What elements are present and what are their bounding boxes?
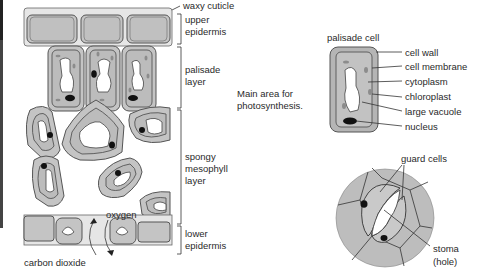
label-cell-wall: cell wall (405, 47, 438, 58)
label-lower-2: epidermis (185, 240, 226, 251)
label-spongy-1: spongy (185, 151, 216, 162)
label-cytoplasm: cytoplasm (405, 76, 448, 87)
palisade-cell-detail (330, 47, 402, 132)
note-line-1: Main area for (237, 88, 293, 99)
label-lower-1: lower (185, 228, 208, 239)
label-waxy-cuticle: waxy cuticle (183, 0, 234, 11)
note-line-2: photosynthesis. (237, 100, 303, 111)
label-cell-membrane: cell membrane (405, 61, 467, 72)
label-guard-cells: guard cells (401, 153, 447, 164)
label-chloroplast: chloroplast (405, 91, 451, 102)
label-carbon-dioxide: carbon dioxide (24, 257, 86, 268)
label-stoma-2: (hole) (433, 256, 457, 267)
label-spongy-3: layer (185, 175, 206, 186)
lower-epidermis (24, 215, 172, 245)
label-oxygen: oxygen (106, 209, 137, 220)
palisade-layer (48, 46, 156, 111)
label-spongy-2: mesophyll (185, 163, 228, 174)
leaf-diagram: .wall { fill: #c4c4c4; stroke: #555; str… (0, 0, 479, 272)
label-stoma-1: stoma (433, 243, 459, 254)
label-large-vacuole: large vacuole (405, 106, 462, 117)
label-upper-epidermis-1: upper (185, 14, 209, 25)
label-palisade-1: palisade (185, 64, 220, 75)
label-upper-epidermis-2: epidermis (185, 26, 226, 37)
label-nucleus: nucleus (405, 121, 438, 132)
upper-epidermis (24, 8, 172, 46)
stoma-detail (336, 165, 434, 267)
palisade-cell-title: palisade cell (327, 32, 379, 43)
spongy-mesophyll (26, 100, 170, 219)
label-brackets (172, 6, 181, 254)
label-palisade-2: layer (185, 76, 206, 87)
